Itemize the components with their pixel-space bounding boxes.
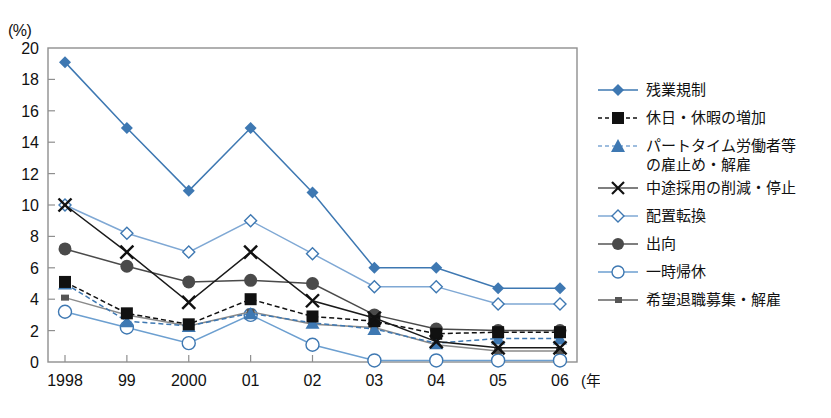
legend-label-7: 希望退職募集・解雇: [646, 288, 781, 309]
legend-marker-cross-icon: [596, 176, 640, 200]
legend-marker-open-circle-icon: [596, 260, 640, 284]
legend-marker-filled-diamond-icon: [596, 78, 640, 102]
svg-text:1998: 1998: [47, 372, 83, 389]
svg-text:18: 18: [21, 71, 39, 88]
legend-label-1: 休日・休暇の増加: [646, 106, 766, 127]
legend-item-0[interactable]: 残業規制: [596, 78, 828, 104]
svg-text:03: 03: [365, 372, 383, 389]
legend-item-6[interactable]: 一時帰休: [596, 260, 828, 286]
chart-root: (%) 024681012141618201998992000010203040…: [0, 0, 831, 418]
chart-legend: 残業規制 休日・休暇の増加 パートタイム労働者等 の雇止め・解雇: [596, 78, 828, 316]
svg-text:05: 05: [489, 372, 507, 389]
svg-text:04: 04: [427, 372, 445, 389]
legend-item-1[interactable]: 休日・休暇の増加: [596, 106, 828, 132]
legend-marker-small-square-icon: [596, 288, 640, 312]
line-chart-plot: 024681012141618201998992000010203040506(…: [0, 0, 600, 410]
svg-text:4: 4: [30, 291, 39, 308]
svg-text:99: 99: [118, 372, 136, 389]
svg-text:10: 10: [21, 197, 39, 214]
svg-text:2000: 2000: [171, 372, 207, 389]
legend-marker-filled-triangle-icon: [596, 134, 640, 158]
legend-label-4: 配置転換: [646, 204, 706, 225]
svg-text:6: 6: [30, 260, 39, 277]
legend-label-0: 残業規制: [646, 78, 706, 99]
svg-text:02: 02: [304, 372, 322, 389]
svg-text:14: 14: [21, 134, 39, 151]
legend-marker-filled-square-icon: [596, 106, 640, 130]
legend-label-2: パートタイム労働者等 の雇止め・解雇: [646, 134, 796, 174]
svg-text:16: 16: [21, 103, 39, 120]
svg-text:0: 0: [30, 354, 39, 371]
legend-label-5: 出向: [646, 232, 676, 253]
svg-text:2: 2: [30, 323, 39, 340]
svg-text:20: 20: [21, 40, 39, 57]
svg-text:(年): (年): [581, 372, 600, 389]
svg-text:01: 01: [242, 372, 260, 389]
series-4: [59, 199, 566, 310]
legend-item-7[interactable]: 希望退職募集・解雇: [596, 288, 828, 314]
legend-item-3[interactable]: 中途採用の削減・停止: [596, 176, 828, 202]
legend-item-2[interactable]: パートタイム労働者等 の雇止め・解雇: [596, 134, 828, 174]
legend-label-3: 中途採用の削減・停止: [646, 176, 796, 197]
legend-marker-open-diamond-icon: [596, 204, 640, 228]
legend-item-5[interactable]: 出向: [596, 232, 828, 258]
svg-text:06: 06: [551, 372, 569, 389]
svg-text:12: 12: [21, 166, 39, 183]
legend-label-6: 一時帰休: [646, 260, 706, 281]
legend-marker-filled-circle-icon: [596, 232, 640, 256]
svg-text:8: 8: [30, 228, 39, 245]
legend-item-4[interactable]: 配置転換: [596, 204, 828, 230]
